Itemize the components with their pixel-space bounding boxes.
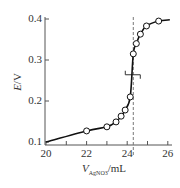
data-point-marker bbox=[113, 119, 119, 125]
data-point-marker bbox=[133, 41, 139, 47]
y-tick-label: 0.4 bbox=[12, 13, 42, 24]
data-point-marker bbox=[84, 128, 90, 134]
y-tick-label: 0.2 bbox=[12, 95, 42, 106]
x-axis-label: VAgNO3/mL bbox=[82, 162, 126, 176]
data-point-marker bbox=[130, 51, 136, 57]
data-point-marker bbox=[122, 107, 128, 113]
x-tick-label: 22 bbox=[75, 148, 99, 159]
data-point-marker bbox=[127, 94, 133, 100]
data-point-marker bbox=[137, 31, 143, 37]
data-point-marker bbox=[104, 124, 110, 130]
y-tick-label: 0.1 bbox=[12, 136, 42, 147]
y-tick-label: 0.3 bbox=[12, 54, 42, 65]
data-point-marker bbox=[156, 18, 162, 24]
x-tick-label: 26 bbox=[156, 148, 180, 159]
y-axis-label: E/V bbox=[11, 73, 23, 91]
x-tick-label: 20 bbox=[34, 148, 58, 159]
data-point-marker bbox=[118, 113, 124, 119]
titration-chart bbox=[0, 0, 180, 188]
x-tick-label: 24 bbox=[115, 148, 139, 159]
data-point-marker bbox=[143, 23, 149, 29]
